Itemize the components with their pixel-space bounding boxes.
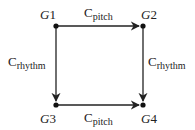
edge-label-bottom: Cpitch (84, 111, 113, 124)
node-g4-dot (140, 102, 145, 107)
node-label-g2: G2 (141, 8, 157, 21)
node-label-g3: G3 (40, 112, 56, 125)
node-g3-dot (53, 102, 58, 107)
edge-label-left: Crhythm (8, 55, 46, 68)
edge-label-top: Cpitch (84, 6, 113, 19)
edge-label-right: Crhythm (148, 55, 186, 68)
node-label-g4: G4 (141, 112, 157, 125)
commutative-diagram: G1 G2 G3 G4 Cpitch Cpitch Crhythm Crhyth… (0, 0, 195, 130)
node-label-g1: G1 (40, 8, 56, 21)
node-g1-dot (53, 23, 58, 28)
node-g2-dot (140, 23, 145, 28)
